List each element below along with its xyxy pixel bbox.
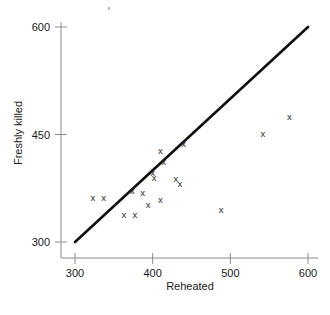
data-point-marker: x xyxy=(181,138,186,149)
data-point-marker: x xyxy=(122,209,127,220)
y-tick-label: 600 xyxy=(32,21,50,33)
x-tick-label: 500 xyxy=(221,267,239,279)
data-point-marker: x xyxy=(177,178,182,189)
data-point-marker: x xyxy=(158,194,163,205)
data-point-group: xxxxxxxxxxxxxxxxxx xyxy=(90,111,291,220)
x-tick-label: 300 xyxy=(66,267,84,279)
x-tick-label: 600 xyxy=(299,267,317,279)
data-point-marker: x xyxy=(90,192,95,203)
data-point-marker: x xyxy=(101,192,106,203)
data-point-marker: x xyxy=(219,204,224,215)
y-tick-label: 450 xyxy=(32,129,50,141)
x-tick-label: 400 xyxy=(143,267,161,279)
data-point-marker: x xyxy=(161,156,166,167)
data-point-marker: x xyxy=(152,172,157,183)
y-tick-group: 300450600 xyxy=(32,21,67,248)
x-tick-group: 300400500600 xyxy=(66,253,317,279)
data-point-marker: x xyxy=(146,199,151,210)
image-speck-artifact xyxy=(108,7,110,10)
y-axis-title: Freshly killed xyxy=(12,101,24,165)
data-point-marker: x xyxy=(261,128,266,139)
chart-canvas: 300450600 300400500600 xxxxxxxxxxxxxxxxx… xyxy=(0,0,330,315)
x-axis-title: Reheated xyxy=(166,280,214,292)
data-point-marker: x xyxy=(132,209,137,220)
identity-reference-line xyxy=(75,27,308,242)
y-tick-label: 300 xyxy=(32,236,50,248)
data-point-marker: x xyxy=(287,111,292,122)
data-point-marker: x xyxy=(158,145,163,156)
scatter-plot-figure: 300450600 300400500600 xxxxxxxxxxxxxxxxx… xyxy=(0,0,330,315)
data-point-marker: x xyxy=(130,185,135,196)
data-point-marker: x xyxy=(140,187,145,198)
